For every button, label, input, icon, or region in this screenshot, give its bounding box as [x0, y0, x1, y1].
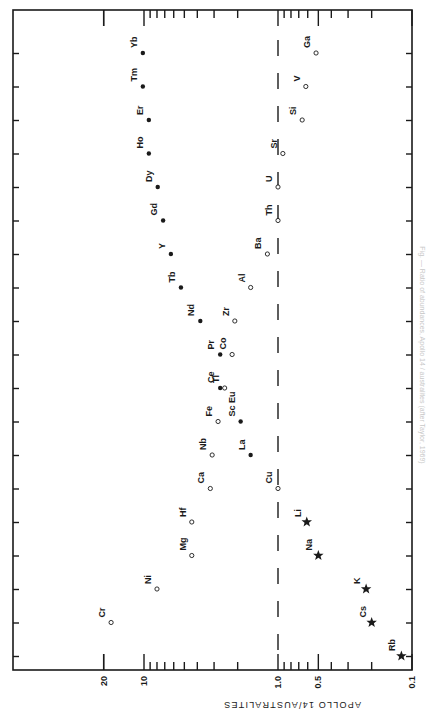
data-point-ni: Ni — [143, 575, 159, 591]
axis-title: APOLLO 14/AUSTRALITES — [223, 700, 361, 710]
element-label: Cr — [97, 607, 107, 617]
filled-circle-marker-icon — [156, 185, 160, 189]
element-label: Cs — [358, 606, 368, 618]
element-label: Tb — [167, 271, 177, 282]
data-point-y: Y — [157, 243, 173, 256]
filled-circle-marker-icon — [147, 151, 151, 155]
data-point-na: Na — [304, 538, 323, 560]
data-point-k: K — [352, 577, 371, 593]
data-point-dy: Dy — [144, 170, 160, 189]
element-label: Rb — [387, 639, 397, 651]
element-label: U — [264, 176, 274, 183]
data-point-mg: Mg — [178, 538, 194, 558]
open-circle-marker-icon — [210, 453, 214, 457]
data-point-nd: Nd — [186, 304, 202, 323]
filled-circle-marker-icon — [198, 319, 202, 323]
element-label: Ga — [302, 35, 312, 48]
star-marker-icon — [361, 584, 371, 594]
data-point-nb: Nb — [198, 438, 214, 458]
data-point-al: Al — [237, 274, 253, 290]
data-point-zr: Zr — [221, 307, 237, 324]
open-circle-marker-icon — [109, 620, 113, 624]
open-circle-marker-icon — [190, 520, 194, 524]
data-point-yb: Yb — [129, 36, 145, 55]
figure-caption: Fig. — Ratio of abundances, Apollo 14 / … — [418, 246, 426, 463]
axis-tick-label: 0.5 — [313, 676, 323, 689]
element-label: Al — [237, 274, 247, 283]
element-label: Ni — [143, 575, 153, 584]
star-marker-icon — [313, 550, 323, 560]
data-point-cr: Cr — [97, 607, 113, 625]
element-label: Si — [288, 106, 298, 115]
axis-tick-label: 0.1 — [407, 676, 417, 689]
element-label: Er — [135, 105, 145, 115]
element-label: Sc Eu — [227, 391, 237, 416]
open-circle-marker-icon — [265, 252, 269, 256]
filled-circle-marker-icon — [179, 285, 183, 289]
star-marker-icon — [366, 617, 376, 627]
element-label: Ho — [135, 136, 145, 148]
element-label: Nb — [198, 438, 208, 450]
chart-canvas: 20101.00.50.1 YbGaTmVErSiHoSrDyUGdThYBaT… — [0, 0, 427, 711]
open-circle-marker-icon — [155, 587, 159, 591]
element-label: Zr — [221, 307, 231, 316]
open-circle-marker-icon — [304, 84, 308, 88]
filled-circle-marker-icon — [141, 84, 145, 88]
data-point-li: Li — [293, 509, 312, 526]
open-circle-marker-icon — [276, 185, 280, 189]
open-circle-marker-icon — [230, 352, 234, 356]
element-label: Cu — [264, 472, 274, 484]
element-label: Y — [157, 243, 167, 249]
element-label: Mg — [178, 538, 188, 551]
filled-circle-marker-icon — [169, 252, 173, 256]
data-point-cs: Cs — [358, 606, 377, 627]
axis-tick-label: 20 — [99, 676, 109, 686]
star-marker-icon — [302, 517, 312, 527]
element-label: Nd — [186, 304, 196, 316]
open-circle-marker-icon — [208, 486, 212, 490]
open-circle-marker-icon — [276, 486, 280, 490]
open-circle-marker-icon — [249, 285, 253, 289]
data-point-rb: Rb — [387, 639, 406, 661]
element-label: Pr — [206, 339, 216, 349]
element-label: Na — [304, 538, 314, 550]
axis-tick-label: 1.0 — [273, 676, 283, 689]
element-label: Th — [264, 205, 274, 216]
element-label: Tm — [129, 68, 139, 82]
open-circle-marker-icon — [216, 419, 220, 423]
star-marker-icon — [396, 651, 406, 661]
element-label: Gd — [149, 203, 159, 216]
data-point-gd: Gd — [149, 203, 165, 223]
data-point-sr: Sr — [269, 138, 285, 155]
open-circle-marker-icon — [300, 118, 304, 122]
axis-tick-label: 10 — [139, 676, 149, 686]
element-label: Ca — [196, 471, 206, 483]
element-label: Tl — [211, 375, 221, 383]
element-label: Sr — [269, 138, 279, 148]
data-point-ba: Ba — [253, 237, 269, 257]
open-circle-marker-icon — [314, 51, 318, 55]
data-point-sc-eu: Sc Eu — [227, 391, 243, 423]
filled-circle-marker-icon — [238, 419, 242, 423]
element-label: La — [237, 439, 247, 450]
element-label: Co — [218, 337, 228, 349]
open-circle-marker-icon — [281, 151, 285, 155]
element-label: K — [352, 577, 362, 584]
data-point-ca: Ca — [196, 471, 212, 491]
open-circle-marker-icon — [190, 553, 194, 557]
filled-circle-marker-icon — [147, 118, 151, 122]
axis-tick-labels: 20101.00.50.1 — [99, 676, 417, 689]
data-point-tm: Tm — [129, 68, 145, 89]
element-label: V — [292, 75, 302, 81]
filled-circle-marker-icon — [248, 453, 252, 457]
open-circle-marker-icon — [233, 319, 237, 323]
data-point-si: Si — [288, 106, 304, 122]
data-point-hf: Hf — [178, 507, 194, 525]
data-point-v: V — [292, 75, 308, 88]
filled-circle-marker-icon — [161, 218, 165, 222]
data-points: YbGaTmVErSiHoSrDyUGdThYBaTbAlNdZrPrCoCeT… — [97, 35, 407, 660]
data-point-ga: Ga — [302, 35, 318, 55]
open-circle-marker-icon — [276, 218, 280, 222]
element-label: Li — [293, 509, 303, 517]
element-label: Fe — [204, 406, 214, 417]
